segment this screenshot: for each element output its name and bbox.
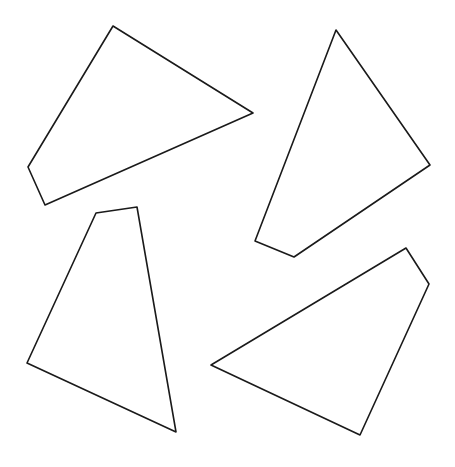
background bbox=[0, 0, 455, 467]
shapes-canvas bbox=[0, 0, 455, 467]
